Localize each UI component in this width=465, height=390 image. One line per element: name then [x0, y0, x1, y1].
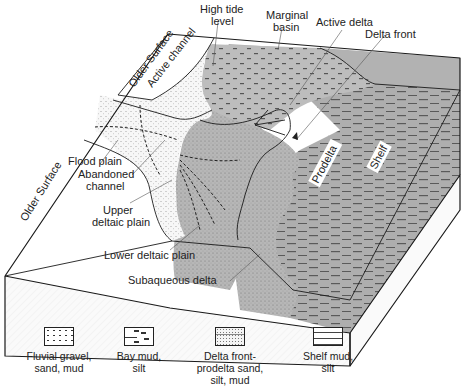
- label-flood-plain: Flood plain: [68, 155, 122, 167]
- legend: Fluvial gravel, sand, mud Bay mud, silt …: [0, 327, 465, 390]
- legend-label-line2: sand, mud: [14, 362, 104, 374]
- legend-item-fluvial: Fluvial gravel, sand, mud: [14, 327, 104, 374]
- legend-label-line1: Delta front-: [190, 350, 270, 362]
- delta-pattern-swatch: [215, 327, 245, 346]
- label-high-tide-2: level: [211, 15, 234, 27]
- label-high-tide-1: High tide: [200, 3, 243, 15]
- label-abandoned-channel-1: Abandoned: [78, 168, 134, 180]
- legend-label-line2: silt: [108, 362, 170, 374]
- label-marginal-basin-2: basin: [273, 21, 299, 33]
- label-upper-deltaic-plain-1: Upper: [103, 204, 133, 216]
- label-lower-deltaic-plain: Lower deltaic plain: [104, 249, 195, 261]
- legend-label-line2: prodelta sand,: [190, 362, 270, 374]
- label-marginal-basin-1: Marginal: [266, 9, 308, 21]
- label-delta-front: Delta front: [365, 28, 416, 40]
- label-upper-deltaic-plain-2: deltaic plain: [92, 216, 150, 228]
- legend-label-line1: Shelf mud,: [295, 350, 361, 362]
- shelf-pattern-swatch: [313, 327, 343, 346]
- legend-label-line2: silt: [295, 362, 361, 374]
- fluvial-pattern-swatch: [44, 327, 74, 346]
- bay-pattern-swatch: [124, 327, 154, 346]
- label-abandoned-channel-2: channel: [86, 180, 125, 192]
- legend-label-line1: Fluvial gravel,: [14, 350, 104, 362]
- legend-item-shelf: Shelf mud, silt: [295, 327, 361, 374]
- legend-label-line3: silt, mud: [190, 374, 270, 386]
- legend-label-line1: Bay mud,: [108, 350, 170, 362]
- label-subaqueous-delta: Subaqueous delta: [128, 274, 218, 286]
- legend-item-delta: Delta front- prodelta sand, silt, mud: [190, 327, 270, 386]
- legend-item-bay: Bay mud, silt: [108, 327, 170, 374]
- label-active-delta: Active delta: [316, 16, 374, 28]
